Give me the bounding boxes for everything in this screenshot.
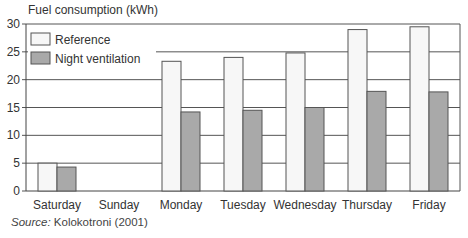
- x-tick-label: Tuesday: [220, 198, 266, 212]
- legend-label: Reference: [55, 33, 111, 47]
- x-tick-label: Wednesday: [273, 198, 336, 212]
- source-text: Kolokotroni (2001): [54, 216, 148, 228]
- legend-label: Night ventilation: [55, 52, 140, 66]
- y-tick-label: 20: [7, 73, 21, 87]
- bar-reference: [38, 163, 57, 191]
- y-tick-label: 15: [7, 101, 21, 115]
- source-note: Source: Kolokotroni (2001): [11, 216, 148, 228]
- y-tick-label: 10: [7, 128, 21, 142]
- bar-night-ventilation: [429, 92, 448, 191]
- x-tick-label: Saturday: [33, 198, 81, 212]
- bar-reference: [410, 27, 429, 191]
- bar-reference: [286, 53, 305, 191]
- bar-reference: [224, 57, 243, 191]
- legend-swatch: [31, 52, 50, 64]
- x-tick-label: Friday: [412, 198, 445, 212]
- x-tick-label: Monday: [160, 198, 203, 212]
- bar-night-ventilation: [243, 110, 262, 191]
- bar-night-ventilation: [305, 108, 324, 192]
- bar-reference: [162, 61, 181, 191]
- source-label: Source:: [11, 216, 51, 228]
- legend-swatch: [31, 33, 50, 45]
- y-tick-label: 0: [13, 184, 20, 198]
- y-tick-label: 25: [7, 45, 21, 59]
- bar-night-ventilation: [367, 91, 386, 191]
- bar-reference: [348, 30, 367, 191]
- y-tick-label: 5: [13, 156, 20, 170]
- x-tick-label: Thursday: [342, 198, 392, 212]
- bar-night-ventilation: [57, 167, 76, 191]
- x-tick-label: Sunday: [99, 198, 140, 212]
- bar-night-ventilation: [181, 112, 200, 191]
- y-tick-label: 30: [7, 17, 21, 31]
- bar-chart: 051015202530SaturdaySundayMondayTuesdayW…: [0, 0, 468, 238]
